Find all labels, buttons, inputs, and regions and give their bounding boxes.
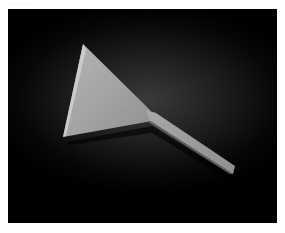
scraper-tool-image	[8, 9, 277, 223]
image-caption: ··· ·········	[10, 0, 36, 7]
photo-frame	[8, 9, 277, 223]
